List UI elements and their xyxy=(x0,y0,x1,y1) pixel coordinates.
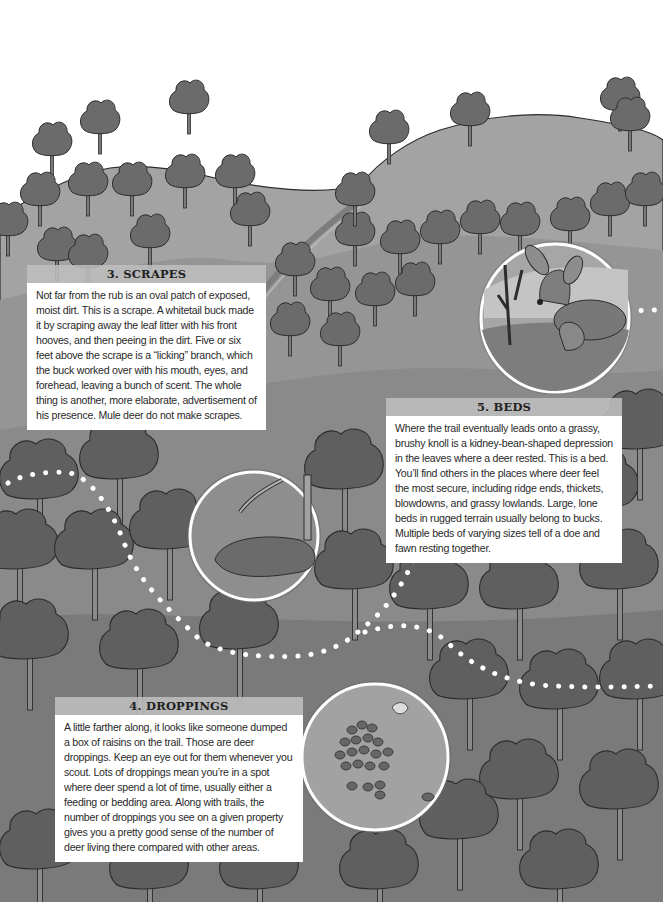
scrapes-callout: 3. SCRAPES Not far from the rub is an ov… xyxy=(27,265,266,430)
droppings-text: A little farther along, it looks like so… xyxy=(55,715,303,862)
droppings-title: 4. DROPPINGS xyxy=(55,697,303,715)
droppings-inset xyxy=(299,681,451,833)
beds-callout: 5. BEDS Where the trail eventually leads… xyxy=(386,398,622,563)
scrapes-inset xyxy=(187,469,321,603)
beds-title: 5. BEDS xyxy=(386,398,622,416)
beds-inset xyxy=(478,241,632,395)
beds-text: Where the trail eventually leads onto a … xyxy=(386,416,622,563)
droppings-callout: 4. DROPPINGS A little farther along, it … xyxy=(55,697,303,862)
scrapes-title: 3. SCRAPES xyxy=(27,265,266,283)
scrapes-text: Not far from the rub is an oval patch of… xyxy=(27,283,266,430)
